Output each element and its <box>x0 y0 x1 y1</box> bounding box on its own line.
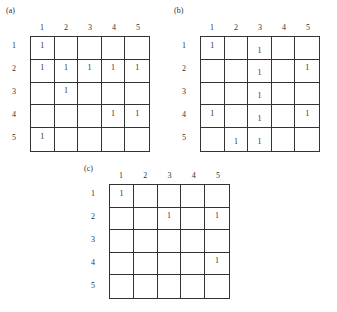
matrix-cell: 1 <box>205 208 229 231</box>
matrix-cell <box>134 230 158 253</box>
matrix-cell <box>134 253 158 276</box>
cell-value: 1 <box>31 63 54 72</box>
row-label: 1 <box>8 41 20 50</box>
matrix-cell <box>272 37 296 60</box>
cell-value: 1 <box>248 137 271 146</box>
row-label: 2 <box>8 64 20 73</box>
row-label: 3 <box>8 87 20 96</box>
matrix-cell: 1 <box>102 60 126 83</box>
matrix-cell <box>134 185 158 208</box>
cell-value: 1 <box>205 211 229 220</box>
row-label: 4 <box>178 110 190 119</box>
cell-value: 1 <box>295 109 319 118</box>
matrix-cell <box>272 128 296 151</box>
matrix-cell <box>295 83 319 106</box>
matrix-cell <box>134 208 158 231</box>
matrix-cell <box>102 83 126 106</box>
panel-label: (c) <box>84 164 93 173</box>
matrix-cell: 1 <box>205 253 229 276</box>
matrix-cell: 1 <box>225 128 249 151</box>
row-label: 5 <box>87 281 99 290</box>
column-label: 1 <box>30 23 54 32</box>
matrix-cell <box>78 37 102 60</box>
matrix-cell <box>78 105 102 128</box>
row-label: 4 <box>87 258 99 267</box>
column-label: 5 <box>126 23 150 32</box>
matrix-cell <box>272 60 296 83</box>
matrix-cell <box>110 208 134 231</box>
matrix-cell: 1 <box>295 60 319 83</box>
row-label: 1 <box>87 189 99 198</box>
matrix-cell <box>102 128 126 151</box>
matrix-cell <box>158 275 182 298</box>
column-label: 4 <box>272 23 296 32</box>
matrix-cell <box>295 128 319 151</box>
matrix-cell <box>201 83 225 106</box>
matrix-cell <box>225 60 249 83</box>
matrix-cell <box>225 37 249 60</box>
matrix-cell: 1 <box>102 105 126 128</box>
matrix-cell: 1 <box>248 128 272 151</box>
matrix-cell <box>272 83 296 106</box>
cell-value: 1 <box>248 68 271 77</box>
matrix-cell: 1 <box>248 83 272 106</box>
matrix-cell <box>110 253 134 276</box>
matrix-cell <box>31 105 55 128</box>
matrix-cell <box>31 83 55 106</box>
row-label: 3 <box>178 87 190 96</box>
cell-value: 1 <box>205 256 229 265</box>
column-label: 5 <box>296 23 320 32</box>
matrix-cell <box>181 230 205 253</box>
matrix-cell: 1 <box>110 185 134 208</box>
cell-value: 1 <box>225 137 248 146</box>
matrix-cell: 1 <box>248 105 272 128</box>
column-label: 5 <box>206 171 230 180</box>
cell-value: 1 <box>248 46 271 55</box>
cell-value: 1 <box>158 211 181 220</box>
column-label: 2 <box>224 23 248 32</box>
matrix-cell <box>125 83 149 106</box>
matrix-grid: 1111111111 <box>200 36 320 152</box>
matrix-cell <box>225 105 249 128</box>
matrix-cell: 1 <box>55 60 79 83</box>
cell-value: 1 <box>102 109 125 118</box>
matrix-cell: 1 <box>78 60 102 83</box>
row-label: 2 <box>178 64 190 73</box>
matrix-grid: 1111 <box>109 184 230 299</box>
cell-value: 1 <box>248 114 271 123</box>
cell-value: 1 <box>125 63 149 72</box>
row-label: 5 <box>178 133 190 142</box>
column-label: 1 <box>200 23 224 32</box>
matrix-cell: 1 <box>55 83 79 106</box>
cell-value: 1 <box>31 41 54 50</box>
column-label: 4 <box>182 171 206 180</box>
matrix-cell <box>295 37 319 60</box>
cell-value: 1 <box>31 132 54 141</box>
column-label: 3 <box>78 23 102 32</box>
cell-value: 1 <box>55 63 78 72</box>
matrix-cell: 1 <box>248 60 272 83</box>
matrix-cell <box>134 275 158 298</box>
matrix-cell <box>102 37 126 60</box>
matrix-cell: 1 <box>125 60 149 83</box>
matrix-cell <box>78 128 102 151</box>
column-label: 2 <box>54 23 78 32</box>
panel-label: (b) <box>174 6 183 15</box>
cell-value: 1 <box>125 109 149 118</box>
matrix-cell: 1 <box>248 37 272 60</box>
matrix-cell <box>272 105 296 128</box>
matrix-cell <box>181 253 205 276</box>
cell-value: 1 <box>201 109 224 118</box>
column-label: 3 <box>248 23 272 32</box>
matrix-cell: 1 <box>31 60 55 83</box>
row-label: 1 <box>178 41 190 50</box>
row-label: 4 <box>8 110 20 119</box>
matrix-cell <box>110 230 134 253</box>
matrix-cell <box>55 37 79 60</box>
matrix-cell <box>78 83 102 106</box>
cell-value: 1 <box>55 86 78 95</box>
matrix-cell <box>110 275 134 298</box>
cell-value: 1 <box>248 91 271 100</box>
matrix-cell: 1 <box>31 128 55 151</box>
matrix-cell: 1 <box>295 105 319 128</box>
